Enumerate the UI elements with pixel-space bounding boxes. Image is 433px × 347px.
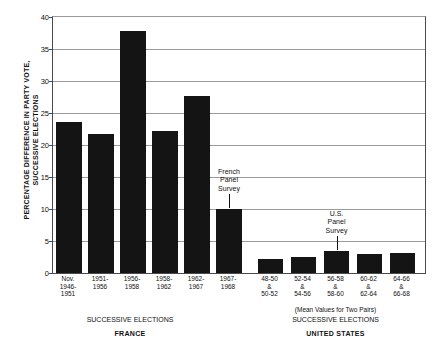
annotation-label: U.S. Panel Survey bbox=[311, 210, 363, 236]
y-tick-mark bbox=[49, 17, 53, 18]
y-tick-label: 20 bbox=[25, 141, 49, 150]
gridline bbox=[53, 81, 425, 82]
y-tick-label: 35 bbox=[25, 45, 49, 54]
annotation-leader-line bbox=[229, 194, 230, 208]
x-tick-label: 56-58 & 58-60 bbox=[317, 275, 354, 298]
x-tick-label: 48-50 & 50-52 bbox=[251, 275, 288, 298]
y-axis-title-area: PERCENTAGE DIFFERENCE IN PARTY VOTE, SUC… bbox=[0, 0, 26, 290]
y-tick-mark bbox=[49, 81, 53, 82]
bar bbox=[56, 122, 82, 273]
y-tick-mark bbox=[49, 273, 53, 274]
y-tick-label: 40 bbox=[25, 13, 49, 22]
bar bbox=[390, 253, 415, 273]
y-tick-label: 15 bbox=[25, 173, 49, 182]
y-tick-label: 10 bbox=[25, 205, 49, 214]
x-tick-label: 64-66 & 66-68 bbox=[383, 275, 420, 298]
us-mean-note: (Mean Values for Two Pairs) bbox=[238, 305, 433, 315]
us-group-title: UNITED STATES bbox=[238, 329, 433, 339]
y-tick-label: 0 bbox=[25, 269, 49, 278]
y-tick-mark bbox=[49, 177, 53, 178]
annotation-leader-line bbox=[337, 236, 338, 250]
bar bbox=[258, 259, 283, 273]
bar bbox=[357, 254, 382, 273]
gridline bbox=[53, 113, 425, 114]
bar bbox=[152, 131, 178, 273]
y-tick-mark bbox=[49, 209, 53, 210]
bar-chart: PERCENTAGE DIFFERENCE IN PARTY VOTE, SUC… bbox=[0, 0, 433, 347]
plot-area: 0510152025303540French Panel SurveyU.S. … bbox=[52, 16, 426, 274]
bar bbox=[291, 257, 316, 273]
us-axis-caption: SUCCESSIVE ELECTIONS bbox=[238, 315, 433, 325]
france-axis-caption: SUCCESSIVE ELECTIONS bbox=[30, 315, 230, 325]
bar bbox=[216, 209, 242, 273]
bar bbox=[88, 134, 114, 273]
gridline bbox=[53, 49, 425, 50]
y-tick-mark bbox=[49, 49, 53, 50]
france-group-title: FRANCE bbox=[30, 329, 230, 339]
x-tick-label: 1967- 1968 bbox=[209, 275, 247, 290]
x-tick-label: 60-62 & 62-64 bbox=[350, 275, 387, 298]
y-tick-label: 5 bbox=[25, 237, 49, 246]
x-axis-tick-labels: Nov. 1946- 19511951- 19561956- 19581958-… bbox=[52, 275, 424, 305]
y-tick-label: 30 bbox=[25, 77, 49, 86]
y-tick-mark bbox=[49, 145, 53, 146]
x-tick-label: 52-54 & 54-56 bbox=[284, 275, 321, 298]
annotation-label: French Panel Survey bbox=[203, 168, 255, 194]
y-tick-label: 25 bbox=[25, 109, 49, 118]
bar bbox=[120, 31, 146, 273]
y-tick-mark bbox=[49, 241, 53, 242]
bar bbox=[324, 251, 349, 273]
y-tick-mark bbox=[49, 113, 53, 114]
